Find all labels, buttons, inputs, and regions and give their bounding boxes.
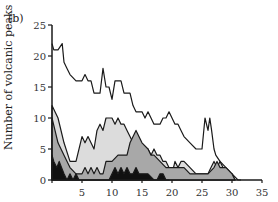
x-tick-label: 15 [136, 187, 149, 198]
x-tick-label: 20 [166, 187, 179, 198]
y-tick-label: 20 [33, 51, 46, 62]
volcanic-peaks-chart: 05101520255101520253035 [0, 0, 278, 202]
y-tick-label: 5 [40, 144, 46, 155]
y-tick-label: 15 [33, 82, 46, 93]
series-areas [52, 44, 241, 180]
y-tick-label: 25 [33, 20, 46, 31]
x-tick-label: 30 [226, 187, 239, 198]
x-tick-label: 5 [79, 187, 85, 198]
x-tick-label: 25 [196, 187, 209, 198]
x-tick-label: 10 [106, 187, 119, 198]
x-tick-label: 35 [256, 187, 269, 198]
y-tick-label: 0 [40, 175, 46, 186]
y-tick-label: 10 [33, 113, 46, 124]
